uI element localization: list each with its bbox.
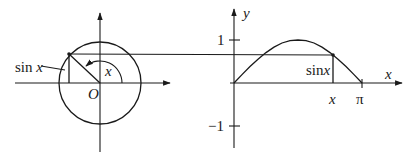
x-axis-label: x (384, 66, 392, 82)
sine-label-var: x (35, 59, 43, 75)
sine-label-right: sinx (306, 62, 331, 78)
sine-graph-panel: y x 1 −1 x π sinx (208, 5, 402, 148)
y-tick-label-neg1: −1 (208, 118, 224, 134)
x-tick-label-pi: π (356, 91, 364, 107)
sine-label-right-var: x (323, 62, 331, 78)
unit-circle-panel: x O sin x (15, 13, 170, 152)
y-axis-label: y (241, 5, 250, 21)
angle-arc (86, 61, 122, 83)
sine-label-left: sin x (15, 59, 43, 75)
x-tick-label-x: x (328, 91, 336, 107)
sine-label-right-fn: sin (306, 62, 324, 78)
sine-unit-circle-diagram: x O sin x y x 1 −1 x π sinx (0, 0, 412, 163)
sine-curve (234, 40, 362, 83)
radius-line (69, 54, 100, 83)
angle-label: x (104, 63, 112, 79)
point-on-curve (331, 53, 335, 57)
y-tick-label-1: 1 (217, 32, 225, 48)
projection-line (69, 54, 333, 55)
origin-label: O (88, 86, 99, 102)
sine-label-fn: sin (15, 59, 36, 75)
